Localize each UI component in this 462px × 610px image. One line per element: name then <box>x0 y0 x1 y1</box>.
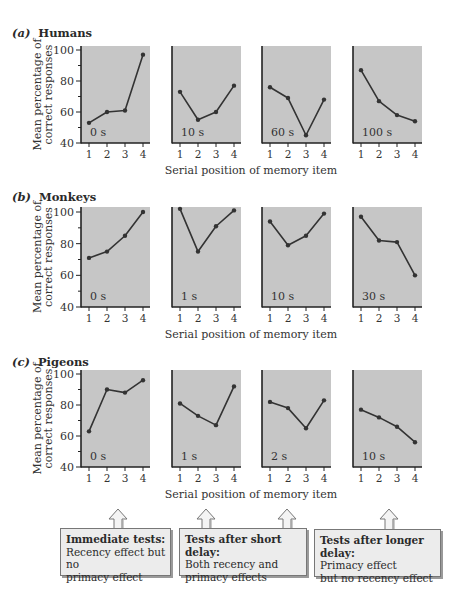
x-tick-label: 4 <box>231 472 238 484</box>
x-tick-label: 4 <box>231 148 238 160</box>
x-tick-label: 2 <box>376 312 383 324</box>
y-tick-label: 100 <box>53 44 74 57</box>
delay-label: 0 s <box>90 290 106 303</box>
x-tick-label: 3 <box>122 472 129 484</box>
y-tick-label: 60 <box>60 430 74 443</box>
up-arrow-icon <box>380 509 398 530</box>
chart-canvas: 1234100806040Mean percentage ofcorrect r… <box>0 0 462 610</box>
delay-label: 10 s <box>181 126 204 139</box>
x-tick-label: 1 <box>358 472 365 484</box>
x-tick-label: 2 <box>376 472 383 484</box>
up-arrow-icon <box>109 509 127 529</box>
up-arrow-icon <box>278 509 296 529</box>
callout-text: primacy effects <box>185 571 302 584</box>
x-tick-label: 2 <box>195 472 202 484</box>
delay-label: 10 s <box>362 450 385 463</box>
x-tick-label: 2 <box>285 148 292 160</box>
callout-longer-delay: Tests after longer delay: Primacy effect… <box>314 529 441 577</box>
x-tick-label: 4 <box>140 148 147 160</box>
y-tick-label: 100 <box>53 368 74 381</box>
delay-label: 2 s <box>271 450 287 463</box>
y-axis-label: correct responses <box>42 207 55 307</box>
x-tick-label: 3 <box>213 312 220 324</box>
y-tick-label: 40 <box>60 137 74 150</box>
x-tick-label: 1 <box>358 312 365 324</box>
callout-immediate-tests: Immediate tests: Recency effect but no p… <box>60 528 171 576</box>
x-tick-label: 3 <box>122 148 129 160</box>
callout-text: Recency effect but no <box>66 546 166 571</box>
callout-text: but no recency effect <box>320 572 436 585</box>
y-tick-label: 60 <box>60 269 74 282</box>
y-tick-label: 40 <box>60 461 74 474</box>
x-axis-label: Serial position of memory item <box>165 488 338 501</box>
x-tick-label: 1 <box>86 472 93 484</box>
x-tick-label: 1 <box>86 148 93 160</box>
x-tick-label: 3 <box>213 148 220 160</box>
y-tick-label: 60 <box>60 106 74 119</box>
delay-label: 100 s <box>362 126 392 139</box>
x-tick-label: 2 <box>104 312 111 324</box>
delay-label: 10 s <box>271 290 294 303</box>
x-tick-label: 4 <box>412 312 419 324</box>
x-tick-label: 2 <box>285 472 292 484</box>
x-tick-label: 4 <box>412 148 419 160</box>
x-tick-label: 3 <box>303 312 310 324</box>
x-tick-label: 4 <box>321 472 328 484</box>
delay-label: 0 s <box>90 450 106 463</box>
x-tick-label: 3 <box>303 148 310 160</box>
x-tick-label: 4 <box>412 472 419 484</box>
x-tick-label: 1 <box>177 312 184 324</box>
callout-text: Both recency and <box>185 558 302 571</box>
x-tick-label: 1 <box>177 472 184 484</box>
x-tick-label: 1 <box>267 148 274 160</box>
x-tick-label: 2 <box>104 148 111 160</box>
x-tick-label: 2 <box>376 148 383 160</box>
delay-label: 1 s <box>181 450 197 463</box>
delay-label: 1 s <box>181 290 197 303</box>
y-tick-label: 100 <box>53 206 74 219</box>
x-tick-label: 3 <box>122 312 129 324</box>
x-tick-label: 3 <box>394 472 401 484</box>
x-tick-label: 2 <box>195 312 202 324</box>
callout-text: Primacy effect <box>320 559 436 572</box>
x-tick-label: 3 <box>213 472 220 484</box>
y-tick-label: 80 <box>60 75 74 88</box>
x-tick-label: 2 <box>104 472 111 484</box>
delay-label: 60 s <box>271 126 294 139</box>
callout-short-delay: Tests after short delay: Both recency an… <box>179 528 307 576</box>
x-tick-label: 2 <box>285 312 292 324</box>
delay-label: 30 s <box>362 290 385 303</box>
callout-heading: Immediate tests: <box>66 533 166 546</box>
callout-text: primacy effect <box>66 571 166 584</box>
x-tick-label: 1 <box>267 472 274 484</box>
y-axis-label: correct responses <box>42 44 55 144</box>
x-axis-label: Serial position of memory item <box>165 328 338 341</box>
x-tick-label: 4 <box>140 312 147 324</box>
x-axis-label: Serial position of memory item <box>165 164 338 177</box>
y-tick-label: 80 <box>60 238 74 251</box>
x-tick-label: 2 <box>195 148 202 160</box>
x-tick-label: 1 <box>267 312 274 324</box>
up-arrow-icon <box>197 509 215 529</box>
x-tick-label: 4 <box>140 472 147 484</box>
x-tick-label: 4 <box>321 148 328 160</box>
x-tick-label: 1 <box>86 312 93 324</box>
x-tick-label: 3 <box>394 148 401 160</box>
y-tick-label: 80 <box>60 399 74 412</box>
x-tick-label: 4 <box>231 312 238 324</box>
y-axis-label: correct responses <box>42 368 55 468</box>
delay-label: 0 s <box>90 126 106 139</box>
x-tick-label: 3 <box>394 312 401 324</box>
x-tick-label: 1 <box>177 148 184 160</box>
x-tick-label: 3 <box>303 472 310 484</box>
callout-heading: Tests after short delay: <box>185 533 302 558</box>
callout-heading: Tests after longer delay: <box>320 534 436 559</box>
x-tick-label: 1 <box>358 148 365 160</box>
y-tick-label: 40 <box>60 301 74 314</box>
x-tick-label: 4 <box>321 312 328 324</box>
